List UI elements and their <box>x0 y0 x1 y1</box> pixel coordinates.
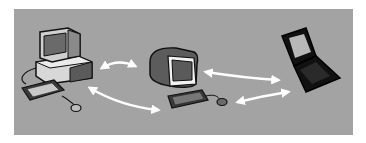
arrow-terminal-laptop-lower <box>238 92 288 102</box>
arrow-desktop-terminal-lower <box>90 88 158 110</box>
terminal-computer-icon <box>150 48 227 108</box>
desktop-computer-icon <box>22 28 92 112</box>
network-diagram <box>0 0 366 143</box>
arrow-desktop-terminal-upper <box>102 62 135 68</box>
laptop-computer-icon <box>282 28 340 92</box>
arrow-terminal-laptop-upper <box>206 72 278 80</box>
